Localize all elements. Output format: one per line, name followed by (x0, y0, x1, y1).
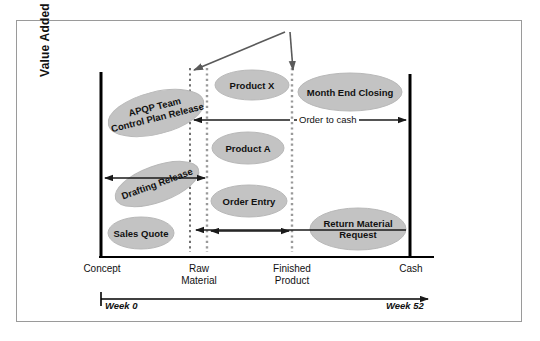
timeline-label-week-0: Week 0 (105, 300, 138, 311)
y-axis-title: Value Added (38, 0, 52, 105)
x-tick-label-cash: Cash (378, 263, 444, 275)
diagram-canvas (0, 0, 540, 341)
x-tick-label-concept: Concept (69, 263, 135, 275)
timeline-label-week-52: Week 52 (386, 300, 424, 311)
x-tick-label-finished-product: Finished Product (259, 263, 325, 286)
node-ellipse-apqp (103, 81, 208, 145)
node-ellipse-product-a (212, 132, 284, 164)
node-ellipse-sales-quote (108, 217, 174, 249)
node-ellipse-product-x (215, 70, 289, 100)
x-tick-label-raw-material: Raw Material (166, 263, 232, 286)
node-ellipse-month-end-closing (298, 73, 402, 111)
flow-label-order-to-cash: Order to cash (297, 114, 359, 125)
node-ellipse-return-material-request (310, 208, 406, 250)
pointer-arrow-to-finished-product (290, 32, 293, 70)
pointer-arrow-to-raw-material (194, 32, 285, 70)
node-ellipse-order-entry (211, 185, 287, 217)
diagram-root: Value Added APQP Team Control Plan Relea… (0, 0, 540, 341)
